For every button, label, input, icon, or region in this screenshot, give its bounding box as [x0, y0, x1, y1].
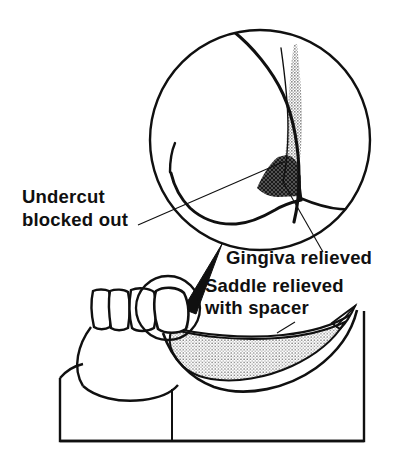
label-saddle-line1: Saddle relieved	[205, 275, 344, 296]
label-gingiva-relieved: Gingiva relieved	[226, 247, 372, 268]
tooth-3	[130, 288, 157, 331]
tooth-2	[109, 290, 130, 331]
label-undercut-line2: blocked out	[22, 209, 128, 230]
label-saddle-line2: with spacer	[204, 297, 309, 318]
tooth-4-abutment	[154, 288, 188, 333]
dental-relief-diagram: Undercut blocked out Gingiva relieved Sa…	[0, 0, 397, 455]
label-undercut-line1: Undercut	[22, 186, 105, 207]
diagram-canvas: Undercut blocked out Gingiva relieved Sa…	[0, 0, 397, 455]
